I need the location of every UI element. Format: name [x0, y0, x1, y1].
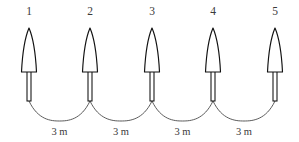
marker-label: 5 [272, 5, 278, 17]
span-arc-4-5 [213, 101, 275, 121]
marker-stem [88, 71, 92, 101]
span-arc-3-4 [152, 101, 213, 121]
marker-label: 4 [210, 5, 216, 17]
marker-2[interactable]: 2 [83, 5, 98, 101]
span-label-2-3: 3 m [113, 126, 129, 137]
span-label-1-2: 3 m [51, 126, 67, 137]
marker-stem [27, 71, 31, 101]
marker-3[interactable]: 3 [145, 5, 160, 101]
marker-label: 2 [87, 5, 93, 17]
marker-stem [211, 71, 215, 101]
span-label-4-5: 3 m [236, 126, 252, 137]
markers-spacing-diagram: 1 2 3 4 5 3 m 3 m 3 m [0, 0, 299, 142]
marker-cone [83, 28, 98, 72]
marker-4[interactable]: 4 [206, 5, 221, 101]
marker-stem [150, 71, 154, 101]
marker-5[interactable]: 5 [268, 5, 283, 101]
marker-cone [268, 28, 283, 72]
marker-label: 1 [26, 5, 32, 17]
marker-1[interactable]: 1 [22, 5, 37, 101]
span-arc-2-3 [90, 101, 152, 121]
span-label-3-4: 3 m [174, 126, 190, 137]
span-labels-group: 3 m 3 m 3 m 3 m [51, 126, 252, 137]
span-arc-1-2 [29, 101, 90, 121]
marker-stem [273, 71, 277, 101]
marker-cone [22, 28, 37, 72]
marker-cone [145, 28, 160, 72]
diagram-canvas: 1 2 3 4 5 3 m 3 m 3 m [0, 0, 299, 142]
marker-cone [206, 28, 221, 72]
marker-label: 3 [149, 5, 155, 17]
span-arcs-group [29, 101, 275, 121]
